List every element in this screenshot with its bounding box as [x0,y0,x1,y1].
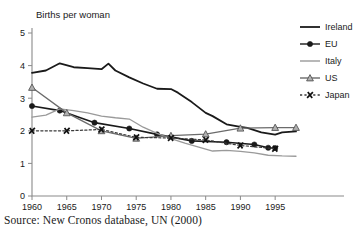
series-us [29,84,300,141]
y-tick-label: 5 [20,28,25,38]
x-tick-label: 1995 [265,202,285,212]
legend-label: EU [325,39,338,49]
legend-item-ireland[interactable]: Ireland [300,22,353,32]
x-tick-label: 1980 [161,202,181,212]
axes: 01234519601965197019751980198519901995 [20,28,344,212]
x-tick-label: 1960 [22,202,42,212]
series-ireland [32,63,296,134]
y-axis-title: Births per woman [36,9,110,20]
legend-item-italy[interactable]: Italy [300,56,342,66]
y-tick-label: 1 [20,159,25,169]
legend-label: US [325,73,338,83]
legend-item-japan[interactable]: Japan [300,90,350,100]
legend-item-us[interactable]: US [300,73,338,83]
x-tick-label: 1970 [91,202,111,212]
x-tick-label: 1985 [196,202,216,212]
legend-label: Italy [325,56,342,66]
y-tick-label: 2 [20,126,25,136]
y-tick-label: 4 [20,61,25,71]
y-tick-label: 0 [20,191,25,201]
legend-label: Ireland [325,22,353,32]
figure-container: 01234519601965197019751980198519901995 I… [0,0,364,236]
x-tick-label: 1975 [126,202,146,212]
fertility-line-chart: 01234519601965197019751980198519901995 I… [0,0,364,236]
x-tick-label: 1965 [57,202,77,212]
source-note: Source: New Cronos database, UN (2000) [4,214,202,226]
series-layer [29,63,300,156]
legend-label: Japan [325,90,350,100]
y-tick-label: 3 [20,94,25,104]
chart-legend: IrelandEUItalyUSJapan [300,22,353,100]
x-tick-label: 1990 [230,202,250,212]
legend-item-eu[interactable]: EU [300,39,338,49]
